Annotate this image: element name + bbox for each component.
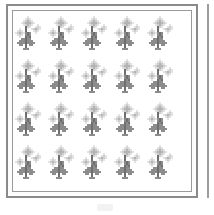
sprite-cell-r1c5[interactable] <box>146 11 179 54</box>
sprite-cell-r3c1[interactable] <box>13 97 46 140</box>
plant-sprite-art <box>81 59 111 93</box>
plant-sprite-art <box>114 102 144 136</box>
plant-sprite-art <box>15 16 45 50</box>
plant-sprite-art <box>15 145 45 179</box>
sprite-cell-r3c5[interactable] <box>146 97 179 140</box>
sprite-cell-r1c3[interactable] <box>79 11 112 54</box>
sprite-cell-r4c4[interactable] <box>113 140 146 183</box>
sprite-cell-r2c5[interactable] <box>146 54 179 97</box>
plant-sprite-art <box>48 102 78 136</box>
sprite-cell-r1c1[interactable] <box>13 11 46 54</box>
sprite-cell-r3c3[interactable] <box>79 97 112 140</box>
sprite-cell-r2c1[interactable] <box>13 54 46 97</box>
plant-sprite-art <box>48 16 78 50</box>
plant-sprite-art <box>114 145 144 179</box>
sprite-cell-r2c2[interactable] <box>46 54 79 97</box>
plant-sprite-art <box>15 59 45 93</box>
sprite-cell-r4c5[interactable] <box>146 140 179 183</box>
plant-sprite-art <box>48 145 78 179</box>
plant-sprite-art <box>147 16 177 50</box>
sprite-cell-r3c2[interactable] <box>46 97 79 140</box>
sprite-cell-r4c1[interactable] <box>13 140 46 183</box>
plant-sprite-art <box>147 102 177 136</box>
sprite-cell-r4c3[interactable] <box>79 140 112 183</box>
plant-sprite-art <box>147 59 177 93</box>
plant-sprite-art <box>15 102 45 136</box>
sprite-cell-r1c2[interactable] <box>46 11 79 54</box>
sprite-cell-r3c4[interactable] <box>113 97 146 140</box>
plant-sprite-art <box>114 16 144 50</box>
plant-sprite-art <box>147 145 177 179</box>
sprite-cell-r1c4[interactable] <box>113 11 146 54</box>
plant-sprite-art <box>114 59 144 93</box>
right-edge-divider <box>207 4 209 198</box>
plant-sprite-art <box>81 145 111 179</box>
plant-sprite-art <box>81 16 111 50</box>
sprite-sheet-canvas <box>0 0 214 215</box>
plant-sprite-art <box>81 102 111 136</box>
bottom-smudge-artifact <box>97 204 113 211</box>
sprite-cell-r2c4[interactable] <box>113 54 146 97</box>
sprite-cell-r2c3[interactable] <box>79 54 112 97</box>
sprite-cell-r4c2[interactable] <box>46 140 79 183</box>
plant-sprite-art <box>48 59 78 93</box>
sprite-grid <box>13 11 179 183</box>
